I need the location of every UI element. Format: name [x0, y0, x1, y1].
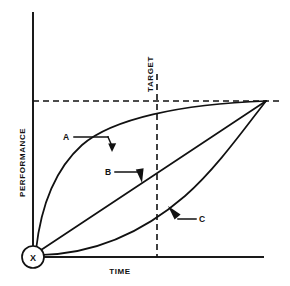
- curves-group: [36, 101, 266, 255]
- curve-c-label: C: [199, 214, 205, 224]
- curve-c-annotation: C: [168, 206, 205, 224]
- performance-time-chart: X A B C TARGET PERFORMANCE TIME: [0, 0, 290, 286]
- curve-a-label: A: [63, 132, 69, 142]
- origin-marker-label: X: [30, 253, 36, 263]
- target-axis-label: TARGET: [146, 56, 155, 92]
- origin-marker-group: X: [22, 246, 44, 268]
- curve-b-arrow-icon: [136, 168, 144, 183]
- curve-b-path: [38, 101, 266, 252]
- curve-c-arrow-icon: [168, 206, 181, 220]
- curve-b-label: B: [105, 167, 111, 177]
- y-axis-title: PERFORMANCE: [18, 128, 27, 197]
- chart-figure: X A B C TARGET PERFORMANCE TIME: [0, 0, 290, 286]
- curve-a-annotation: A: [63, 132, 116, 152]
- curve-b-annotation: B: [105, 167, 144, 183]
- curve-a-arrow-icon: [108, 143, 116, 152]
- x-axis-title: TIME: [109, 267, 131, 276]
